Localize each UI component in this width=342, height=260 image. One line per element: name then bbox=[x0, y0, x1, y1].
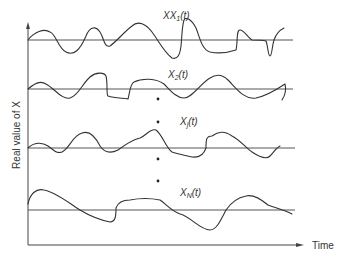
ellipsis-dots bbox=[157, 98, 160, 183]
x-axis-label: Time bbox=[312, 240, 334, 251]
ensemble-diagram: XX1(t) X2(t) Xj(t) XN(t) Real value of X… bbox=[0, 0, 342, 260]
dot-icon bbox=[157, 121, 160, 124]
label-x1: XX1(t) bbox=[162, 10, 190, 22]
dot-icon bbox=[157, 180, 160, 183]
waveform-x1 bbox=[28, 18, 284, 58]
waveform-x2 bbox=[28, 73, 286, 100]
label-xn: XN(t) bbox=[179, 187, 201, 199]
dot-icon bbox=[157, 98, 160, 101]
y-axis-label: Real value of X bbox=[11, 101, 22, 169]
label-xj: Xj(t) bbox=[179, 116, 198, 129]
waveform-xj bbox=[28, 130, 280, 158]
label-x2: X2(t) bbox=[167, 69, 188, 81]
baselines bbox=[28, 40, 295, 210]
axes bbox=[26, 22, 304, 247]
x-axis-arrow-icon bbox=[296, 243, 304, 247]
dot-icon bbox=[157, 158, 160, 161]
y-axis-arrow-icon bbox=[26, 22, 30, 29]
